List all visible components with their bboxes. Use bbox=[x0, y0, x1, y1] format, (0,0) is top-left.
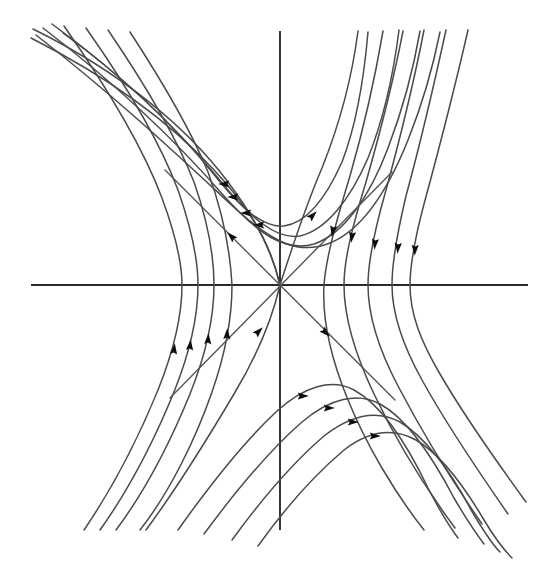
trajectory-upper-branch-3 bbox=[52, 24, 399, 236]
trajectory-left-branch-4 bbox=[64, 26, 182, 530]
phase-portrait-figure bbox=[0, 0, 555, 561]
trajectory-group bbox=[31, 24, 526, 558]
trajectory-right-branch-2 bbox=[344, 31, 455, 528]
phase-portrait-canvas bbox=[0, 0, 555, 561]
flow-direction-arrow-icon bbox=[186, 339, 194, 351]
trajectory-lower-branch-1 bbox=[178, 385, 458, 538]
trajectory-lower-branch-4 bbox=[258, 433, 512, 558]
trajectory-upper-left-inflow-2 bbox=[33, 29, 280, 285]
separatrix-direction-arrow-icon bbox=[306, 209, 319, 222]
arrowhead-group bbox=[170, 180, 419, 439]
flow-direction-arrow-icon bbox=[298, 392, 309, 399]
trajectory-lower-left-outflow-1 bbox=[146, 285, 280, 530]
flow-direction-arrow-icon bbox=[204, 333, 212, 344]
flow-direction-arrow-icon bbox=[324, 404, 335, 411]
flow-direction-arrow-icon bbox=[170, 343, 178, 355]
trajectory-right-branch-5 bbox=[410, 30, 526, 502]
